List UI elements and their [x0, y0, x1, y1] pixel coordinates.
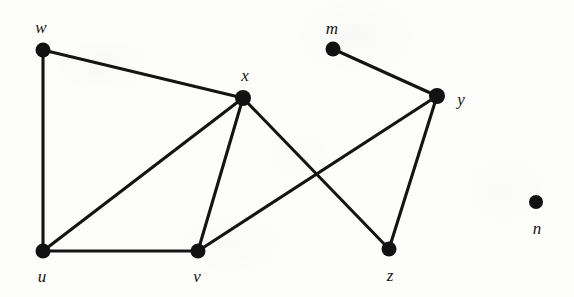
graph-node-y — [429, 88, 445, 104]
edge-layer — [43, 49, 437, 251]
graph-canvas — [0, 0, 574, 297]
graph-node-v — [191, 244, 206, 259]
graph-edge-u-x — [43, 98, 243, 251]
graph-node-u — [36, 244, 51, 259]
graph-edge-w-x — [43, 50, 243, 98]
node-label-u: u — [38, 268, 47, 285]
node-layer — [36, 42, 544, 259]
graph-node-x — [235, 90, 251, 106]
graph-node-w — [36, 43, 51, 58]
graph-edge-v-y — [198, 96, 437, 251]
node-label-y: y — [457, 91, 465, 108]
node-label-z: z — [387, 267, 394, 284]
node-label-w: w — [35, 19, 46, 36]
graph-edge-x-v — [198, 98, 243, 251]
graph-node-n — [529, 195, 543, 209]
graph-edge-y-z — [389, 96, 437, 249]
graph-edge-m-y — [333, 49, 437, 96]
graph-node-z — [382, 242, 397, 257]
node-label-x: x — [241, 67, 249, 84]
graph-node-m — [326, 42, 341, 57]
graph-figure: wxmyuvzn — [0, 0, 574, 297]
node-label-m: m — [326, 20, 338, 37]
node-label-n: n — [533, 220, 542, 237]
node-label-v: v — [193, 268, 201, 285]
